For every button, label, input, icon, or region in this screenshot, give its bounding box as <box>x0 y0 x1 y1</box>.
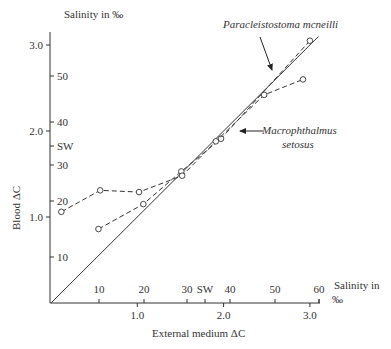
y-salinity-tick-label: 50 <box>57 70 69 82</box>
x-tick-label: 2.0 <box>217 309 231 321</box>
x-salinity-label-1: Salinity in <box>334 279 380 291</box>
data-point <box>261 92 267 98</box>
x-salinity-label-2: ‰ <box>332 293 343 305</box>
x-tick-label: 1.0 <box>130 309 144 321</box>
x-salinity-tick-label: 10 <box>94 283 106 295</box>
axis-ticks: 1.02.03.01.02.03.0102030SW4050601020SW30… <box>29 39 325 321</box>
y-tick-label: 1.0 <box>29 211 43 223</box>
y-salinity-tick-label: 40 <box>57 116 69 128</box>
x-salinity-tick-label: 40 <box>225 283 237 295</box>
y-axis-label: Blood ΔC <box>10 186 22 230</box>
series-group <box>51 36 319 303</box>
x-salinity-tick-label: 50 <box>270 283 282 295</box>
arrow-paracleistostoma <box>260 37 272 70</box>
y-salinity-label: Salinity in ‰ <box>64 8 123 20</box>
series-line <box>51 36 319 303</box>
species-label-macrophthalmus-1: Macrophthalmus <box>261 124 337 136</box>
y-tick-label: 3.0 <box>29 39 43 51</box>
y-tick-label: 2.0 <box>29 125 43 137</box>
data-point <box>96 226 102 232</box>
data-point <box>179 173 185 179</box>
data-point <box>141 201 147 207</box>
x-salinity-tick-label: SW <box>197 283 214 295</box>
y-salinity-tick-label: 30 <box>57 159 69 171</box>
y-salinity-tick-label: 10 <box>57 251 69 263</box>
species-label-macrophthalmus-2: setosus <box>282 138 314 150</box>
chart: 1.02.03.01.02.03.0102030SW4050601020SW30… <box>0 0 391 349</box>
x-salinity-tick-label: 60 <box>314 283 326 295</box>
x-axis-label: External medium ΔC <box>152 327 245 339</box>
y-salinity-tick-label: SW <box>57 140 74 152</box>
x-tick-label: 3.0 <box>303 309 317 321</box>
species-label-paracleistostoma: Paracleistostoma mcneilli <box>222 18 338 30</box>
x-salinity-tick-label: 20 <box>139 283 151 295</box>
data-point <box>300 77 306 83</box>
data-point <box>307 38 313 44</box>
data-point <box>59 209 65 215</box>
data-point <box>136 189 142 195</box>
data-point <box>213 139 219 145</box>
y-salinity-tick-label: 20 <box>57 195 69 207</box>
data-point <box>97 188 103 194</box>
x-salinity-tick-label: 30 <box>182 283 194 295</box>
